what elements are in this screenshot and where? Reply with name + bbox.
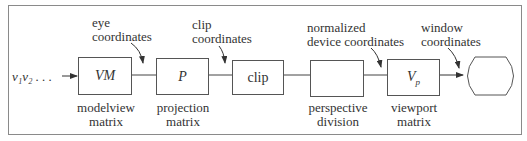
projection-symbol: P xyxy=(178,69,187,85)
output-terminal-shape xyxy=(468,57,514,95)
modelview-box: VM xyxy=(78,57,132,95)
perspective-division-caption: perspectivedivision xyxy=(300,101,376,129)
perspective-division-box xyxy=(310,60,364,97)
projection-box: P xyxy=(156,58,209,95)
modelview-symbol: VM xyxy=(95,68,115,84)
viewport-caption: viewportmatrix xyxy=(378,101,450,129)
modelview-caption: modelviewmatrix xyxy=(70,101,142,129)
clip-box: clip xyxy=(232,60,284,95)
input-vertices-label: v₁v₂ . . . xyxy=(12,69,52,85)
normalized-device-coordinates-label: normalizeddevice coordinates xyxy=(307,21,404,49)
viewport-symbol: Vp xyxy=(407,69,420,87)
viewport-box: Vp xyxy=(387,59,440,96)
eye-coordinates-label: eyecoordinates xyxy=(92,16,152,44)
clip-coordinates-label: clipcoordinates xyxy=(192,18,252,46)
projection-caption: projectionmatrix xyxy=(145,101,221,129)
window-coordinates-label: windowcoordinates xyxy=(421,21,481,49)
clip-symbol: clip xyxy=(248,70,269,86)
